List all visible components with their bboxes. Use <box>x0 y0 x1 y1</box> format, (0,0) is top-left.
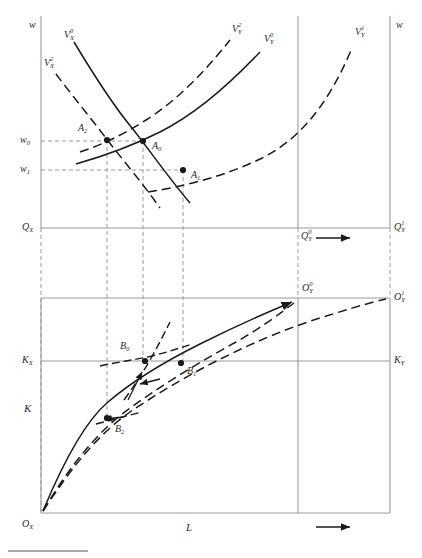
origin-label-oy0: O0Y <box>302 283 313 293</box>
curve-label-vy1: V1Y <box>355 27 365 37</box>
contract-curve-0 <box>43 302 292 511</box>
curve-label-vx0: V0X <box>64 30 74 40</box>
point-label-b2: B2 <box>115 424 124 435</box>
axis-label-qy1: Q1Y <box>394 222 405 232</box>
vertical-guides <box>41 140 390 513</box>
top-equilibrium-points <box>104 137 186 173</box>
curve-label-vy2: V2Y <box>232 24 242 34</box>
diagram-canvas <box>0 0 422 558</box>
wage-tick-w0: w0 <box>20 135 30 146</box>
point-label-a2: A2 <box>78 123 87 134</box>
bottom-panel-axes <box>41 298 390 513</box>
axis-label-kx: KX <box>22 355 33 366</box>
point-label-a1: A1 <box>191 170 200 181</box>
contract-curve-2 <box>43 303 294 511</box>
axis-label-w-right: w <box>396 20 403 30</box>
wage-tick-w1: w1 <box>20 164 30 175</box>
bottom-allocation-points <box>104 358 184 421</box>
axis-label-l: L <box>186 522 192 533</box>
economics-figure: w w w0 w1 QX Q0Y Q1Y V0X V2X V2Y V0Y V1Y… <box>0 0 422 558</box>
contract-curve-1 <box>43 299 386 511</box>
point-label-b1: B1 <box>187 366 196 377</box>
path-direction-arrows <box>104 372 160 419</box>
curve-label-vx2: V2X <box>44 58 54 68</box>
curve-vy1 <box>148 48 352 192</box>
axis-label-w-left: w <box>29 20 36 30</box>
isoquant-segments <box>96 322 192 424</box>
point-label-a0: A0 <box>152 141 161 152</box>
origin-label-ox: OX <box>22 519 33 530</box>
axis-label-k: K <box>24 403 31 414</box>
point-label-b0: B0 <box>120 341 129 352</box>
axis-label-ky: KY <box>394 355 404 366</box>
curve-label-vy0: V0Y <box>264 34 274 44</box>
axis-label-qx: QX <box>22 222 33 233</box>
origin-label-oy1: O1Y <box>394 292 405 302</box>
curve-vx0 <box>74 42 190 203</box>
axis-label-qy0: Q0Y <box>301 231 312 241</box>
curve-vy0 <box>76 52 260 164</box>
